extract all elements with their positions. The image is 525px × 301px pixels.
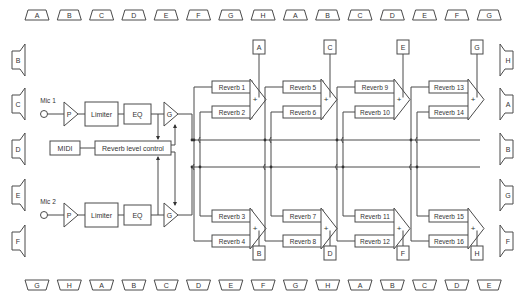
speaker-left-e: E [12,179,25,211]
junction-dot [410,139,413,142]
output-f: F [397,246,409,260]
microphone-icon [41,111,48,118]
reverb-1-label: Reverb 1 [219,84,246,91]
reverb-6: Reverb 6 [283,106,323,118]
summer-symbol: + [397,95,402,104]
speaker-label: G [34,282,39,289]
junction-dot [416,166,419,169]
reverb-14: Reverb 14 [429,106,469,118]
speaker-top-h: H [251,10,275,20]
speaker-top-d: D [380,10,404,20]
output-h: H [471,246,483,260]
speaker-top-f: F [187,10,211,20]
speaker-top-e: E [154,10,178,20]
speaker-label: C [15,101,20,108]
eq-1-label: EQ [132,111,143,119]
reverb-13: Reverb 13 [429,81,469,93]
reverb-8-label: Reverb 8 [290,238,317,245]
speaker-label: C [164,282,169,289]
speaker-bottom-g: G [283,280,307,290]
junction-dot [342,166,345,169]
midi-box: MIDI [50,141,80,155]
feeder [343,167,355,216]
junction-dot [264,139,267,142]
speaker-top-b: B [316,10,340,20]
feeder [337,87,355,140]
feeder [271,167,283,216]
reverb-9-label: Reverb 9 [362,84,389,91]
speaker-label: G [293,282,298,289]
summer-3-top: + [394,79,410,120]
reverb-12: Reverb 12 [355,235,395,247]
gain-2: G [164,203,178,227]
speaker-top-g: G [477,10,501,20]
output-b-label: B [257,250,262,257]
reverb-7: Reverb 7 [283,210,323,222]
arrow-icon [156,136,160,140]
microphone-icon [41,212,48,219]
reverb-16-label: Reverb 16 [434,238,464,245]
gain-label: G [167,212,172,219]
speaker-label: D [131,12,136,19]
speaker-left-d: D [12,133,25,165]
speaker-label: A [506,101,511,108]
speaker-label: C [357,12,362,19]
speaker-label: A [35,12,40,19]
speaker-right-h: H [500,44,513,76]
reverb-16: Reverb 16 [429,235,469,247]
speaker-left-b: B [12,44,25,76]
speaker-left-f: F [12,225,25,257]
speaker-left-c: C [12,88,25,120]
summer-2-top: + [321,79,337,120]
feeder [194,87,212,140]
speaker-label: F [16,238,20,245]
speaker-bottom-f: F [251,280,275,290]
output-g-label: G [474,44,479,51]
summer-symbol: + [471,224,476,233]
preamp-label: P [67,111,72,118]
reverb-3: Reverb 3 [212,210,252,222]
preamp-1: P [64,102,78,126]
output-a: A [253,40,265,54]
speaker-right-b: B [500,133,513,165]
speaker-label: G [486,12,491,19]
summer-3-bottom: + [394,208,410,249]
reverb-7-label: Reverb 7 [290,213,317,220]
summer-symbol: + [324,224,329,233]
speaker-bottom-a: A [348,280,372,290]
reverb-10-label: Reverb 10 [360,109,390,116]
reverb-5: Reverb 5 [283,81,323,93]
summer-4-top: + [468,79,484,120]
speaker-label: B [325,12,330,19]
junction-dot [336,139,339,142]
speaker-label: D [454,282,459,289]
feeder [265,87,283,140]
speaker-label: D [196,282,201,289]
speaker-label: F [196,12,200,19]
arrow-icon [156,156,160,160]
reverb-4-label: Reverb 4 [219,238,246,245]
speaker-label: C [99,12,104,19]
reverb-2: Reverb 2 [212,106,252,118]
speaker-right-g: G [500,179,513,211]
speaker-bottom-c: C [154,280,178,290]
speaker-top-e: E [413,10,437,20]
speaker-label: B [67,12,72,19]
feeder [411,140,429,241]
summer-symbol: + [397,224,402,233]
output-d-label: D [327,250,332,257]
speaker-bottom-g: G [25,280,49,290]
reverb-level-control-label: Reverb level control [102,145,164,152]
speaker-bottom-e: E [219,280,243,290]
eq-1: EQ [124,104,151,124]
reverb-13-label: Reverb 13 [434,84,464,91]
limiter-2-label: Limiter [91,212,113,219]
output-a-label: A [257,44,262,51]
limiter-2: Limiter [85,203,118,227]
feeder [417,167,429,216]
summer-1-bottom: + [250,208,266,249]
reverb-level-control: Reverb level control [95,141,171,155]
diagram-canvas: ABCDEFGHABCDEFGGHABCDEFGHABCDEBCDEFHABGF… [0,0,525,301]
speaker-top-f: F [445,10,469,20]
output-b: B [253,246,265,260]
